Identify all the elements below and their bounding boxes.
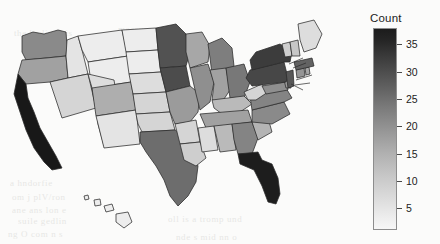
state-me[interactable]: Maine: 4 xyxy=(298,20,322,52)
state-sd[interactable]: South Dakota: 2 xyxy=(126,50,161,74)
leader-line-ri xyxy=(295,83,310,85)
legend-title: Count xyxy=(370,12,402,24)
colorbar-tick-mark-10 xyxy=(397,181,402,182)
map-svg: Washington: 17Oregon: 13Idaho: 3Montana:… xyxy=(0,0,350,244)
colorbar-tick-mark-35 xyxy=(397,44,402,45)
state-nh[interactable]: New Hampshire: 7 xyxy=(290,40,300,56)
colorbar-tick-mark-20 xyxy=(397,126,402,127)
state-nm[interactable]: New Mexico: 3 xyxy=(96,110,140,148)
state-nd[interactable]: North Dakota: 2 xyxy=(122,28,158,52)
colorbar-tick-label-25: 25 xyxy=(406,93,418,105)
colorbar-tick-mark-25 xyxy=(397,99,402,100)
colorbar-tick-mark-30 xyxy=(397,72,402,73)
colorbar-tick-label-10: 10 xyxy=(406,175,418,187)
colorbar-tick-mark-5 xyxy=(397,208,402,209)
colorbar-wrapper: 3530252015105 xyxy=(373,28,397,230)
state-ok[interactable]: Oklahoma: 5 xyxy=(136,112,175,132)
states-layer: Washington: 17Oregon: 13Idaho: 3Montana:… xyxy=(14,20,322,228)
colorbar-tick-label-30: 30 xyxy=(406,66,418,78)
colorbar-tick-label-5: 5 xyxy=(406,202,412,214)
state-nv[interactable]: Nevada: 5 xyxy=(50,74,96,118)
state-mn[interactable]: Minnesota: 27 xyxy=(156,24,190,68)
state-fl[interactable]: Florida: 37 xyxy=(238,152,280,204)
state-hi[interactable]: Hawaii: 2 xyxy=(84,195,132,228)
state-ne[interactable]: Nebraska: 4 xyxy=(129,72,166,94)
colorbar-tick-label-15: 15 xyxy=(406,148,418,160)
colorbar-gradient xyxy=(373,28,397,230)
state-ks[interactable]: Kansas: 5 xyxy=(133,92,170,114)
us-choropleth-map[interactable]: Washington: 17Oregon: 13Idaho: 3Montana:… xyxy=(0,0,350,244)
state-wi[interactable]: Wisconsin: 12 xyxy=(186,32,210,68)
figure-canvas: the bodiesseismeasurementicof the mostly… xyxy=(0,0,440,244)
colorbar-tick-mark-15 xyxy=(397,154,402,155)
state-wa[interactable]: Washington: 17 xyxy=(22,30,67,60)
legend-colorbar: Count 3530252015105 xyxy=(366,8,436,238)
colorbar-tick-label-20: 20 xyxy=(406,120,418,132)
state-ar[interactable]: Arkansas: 5 xyxy=(175,120,200,144)
colorbar-tick-label-35: 35 xyxy=(406,38,418,50)
